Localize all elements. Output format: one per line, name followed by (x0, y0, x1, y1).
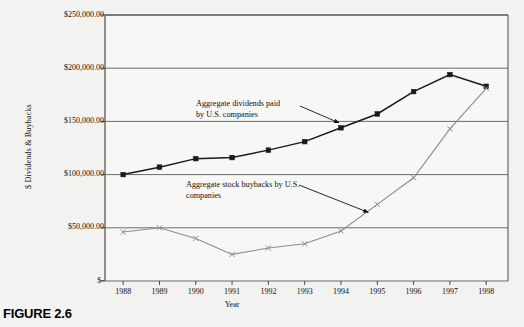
x-tick-label: 1997 (430, 287, 470, 296)
x-tick-label: 1990 (176, 287, 216, 296)
y-axis-title: $ Dividends & Buybacks (24, 67, 33, 227)
x-tick-label: 1994 (321, 287, 361, 296)
x-tick-label: 1991 (212, 287, 252, 296)
figure-caption: FIGURE 2.6 (3, 306, 72, 321)
x-tick-label: 1988 (103, 287, 143, 296)
figure-container: $-$50,000.00$100,000.00$150,000.00$200,0… (0, 0, 524, 327)
x-axis-tick-labels: 1988198919901991199219931994199519961997… (0, 0, 524, 327)
x-tick-label: 1989 (139, 287, 179, 296)
annotation-dividends-label: Aggregate dividends paid by U.S. compani… (196, 99, 336, 120)
x-tick-label: 1993 (285, 287, 325, 296)
x-tick-label: 1998 (466, 287, 506, 296)
x-tick-label: 1996 (394, 287, 434, 296)
x-axis-title: Year (202, 300, 262, 309)
annotation-buybacks-label: Aggregate stock buybacks by U.S. compani… (186, 180, 346, 201)
x-tick-label: 1995 (357, 287, 397, 296)
x-tick-label: 1992 (248, 287, 288, 296)
